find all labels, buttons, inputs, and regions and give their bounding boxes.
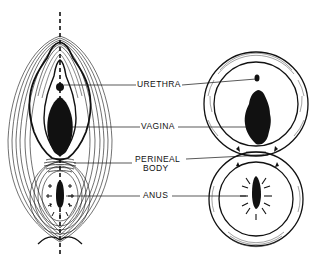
urethra-orifice	[56, 83, 64, 91]
label-body: BODY	[142, 164, 170, 173]
right-panel	[204, 52, 308, 247]
left-panel	[8, 12, 112, 255]
label-vagina: VAGINA	[140, 122, 176, 131]
anus-blob	[252, 176, 261, 209]
label-urethra: URETHRA	[136, 80, 182, 89]
urethra-dot	[255, 75, 260, 82]
label-anus: ANUS	[142, 191, 169, 200]
anus-orifice	[56, 180, 64, 208]
diagram-canvas	[0, 0, 320, 262]
vagina-blob	[245, 90, 271, 145]
